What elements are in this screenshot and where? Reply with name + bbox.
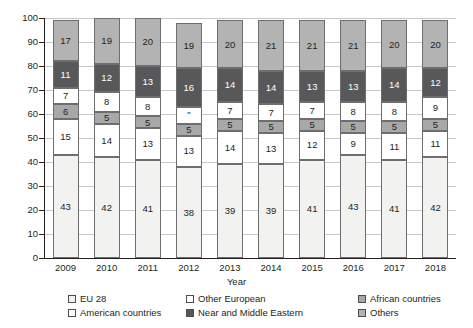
bar-segment-label: 15 [60,132,71,142]
y-axis-tick-mark [39,210,44,211]
bar-segment: 6 [53,104,79,118]
legend-item[interactable]: American countries [68,306,186,320]
bar-segment: 41 [381,160,407,258]
bar-segment: 13 [176,136,202,167]
bar-segment: 9 [340,133,366,155]
y-axis-tick-label: 0 [0,253,38,263]
x-axis-line [44,258,456,259]
bar-segment: 13 [299,71,325,102]
bar-segment-label: 41 [307,204,318,214]
bar-group: 4113581320 [135,18,161,258]
legend-item[interactable]: Other European [186,292,358,306]
bar-segment-label: 11 [431,139,441,149]
bar-segment-label: 16 [184,83,195,93]
y-axis-tick-label: 40 [0,157,38,167]
bar-segment: 12 [299,131,325,160]
bar-segment-label: 20 [225,40,236,50]
bar-segment-label: 8 [145,102,150,112]
bar-segment-label: 5 [104,113,109,123]
legend-label: Other European [198,292,266,306]
bar-segment: 43 [53,155,79,258]
bar-series-container: 43156711174214581219411358132038135"1619… [45,18,456,258]
bar-segment-label: 21 [348,41,359,51]
bar-group: 3914571420 [217,20,243,258]
bar-segment-label: " [187,110,190,120]
y-axis-tick-mark [39,114,44,115]
bar-segment: 8 [340,102,366,121]
bar-segment-label: 13 [184,146,195,156]
bar-segment: 7 [217,102,243,119]
bar-group: 4111581420 [381,20,407,258]
bar-segment: 12 [422,68,448,97]
legend-item[interactable]: Near and Middle Eastern [186,306,358,320]
bar-segment-label: 9 [433,103,438,113]
legend-item[interactable]: EU 28 [68,292,186,306]
legend-swatch-icon [68,295,76,303]
y-axis-tick-label: 10 [0,229,38,239]
bar-segment-label: 42 [101,203,112,213]
bar-segment-label: 11 [389,142,399,152]
legend-label: Near and Middle Eastern [198,306,303,320]
bar-segment: 11 [53,61,79,87]
bar-segment: 41 [135,160,161,258]
y-axis-tick-label: 70 [0,85,38,95]
bar-segment-label: 5 [145,118,150,128]
bar-segment: 14 [217,131,243,165]
bar-segment: 42 [94,157,120,258]
legend-swatch-icon [358,309,366,317]
legend-swatch-icon [358,295,366,303]
bar-segment-label: 6 [63,107,68,117]
bar-segment-label: 14 [225,143,236,153]
legend-label: Others [370,306,399,320]
y-axis-tick-mark [39,162,44,163]
bar-segment-label: 13 [307,82,318,92]
bar-segment: 9 [422,97,448,119]
y-axis-tick-mark [39,66,44,67]
bar-segment: 14 [258,71,284,105]
legend-item[interactable]: African countries [358,292,468,306]
bar-segment-label: 5 [351,122,356,132]
bar-segment-label: 13 [348,82,359,92]
bar-segment: 7 [53,88,79,105]
y-axis-tick-mark [39,18,44,19]
bar-segment: 8 [381,102,407,121]
bar-segment-label: 21 [266,41,277,51]
bar-segment-label: 5 [392,122,397,132]
bar-segment-label: 5 [433,120,438,130]
y-axis-tick-mark [39,234,44,235]
bar-segment-label: 9 [351,139,356,149]
y-axis-tick-label: 20 [0,205,38,215]
legend-item[interactable]: Others [358,306,468,320]
bar-segment-label: 7 [63,91,68,101]
y-axis-tick-label: 30 [0,181,38,191]
chart-legend: EU 28Other EuropeanAfrican countriesAmer… [68,292,428,320]
bar-segment-label: 8 [104,97,109,107]
bar-segment-label: 12 [101,73,112,83]
bar-segment-label: 5 [186,125,191,135]
bar-segment: 13 [258,133,284,164]
bar-segment: 8 [135,97,161,116]
bar-segment: 15 [53,119,79,155]
bar-segment-label: 42 [430,203,441,213]
y-axis-tick-label: 50 [0,133,38,143]
bar-segment: 14 [217,68,243,102]
bar-segment-label: 19 [184,41,195,51]
bar-segment-label: 13 [266,144,277,154]
bar-segment: 41 [299,160,325,258]
bar-segment-label: 13 [142,139,153,149]
bar-segment: " [176,107,202,124]
bar-segment: 21 [340,20,366,70]
legend-label: American countries [80,306,161,320]
bar-segment: 16 [176,68,202,106]
y-axis-tick-mark [39,42,44,43]
bar-segment: 39 [258,164,284,258]
x-axis-tick-label: 2018 [411,263,459,273]
bar-segment: 5 [94,112,120,124]
bar-segment: 14 [381,68,407,102]
bar-segment-label: 12 [307,140,318,150]
bar-group: 3913571421 [258,20,284,258]
bar-segment: 13 [135,66,161,97]
legend-swatch-icon [68,309,76,317]
bar-segment: 21 [258,20,284,70]
y-axis-tick-mark [39,186,44,187]
